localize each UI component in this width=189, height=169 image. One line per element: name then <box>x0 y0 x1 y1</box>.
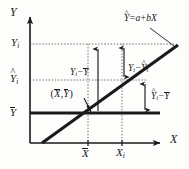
y-tick-label-Y_i: Yi <box>11 37 19 49</box>
annotation-centroid-point: (X,Y) <box>50 88 73 99</box>
y-axis-label: Y <box>10 6 17 18</box>
figure-canvas <box>0 0 189 169</box>
regression-equation-label: Y=a+bX <box>124 14 157 24</box>
x-tick-label-X_i: Xi <box>116 147 125 159</box>
annotation-unexplained-deviation: Yi−Yi <box>128 64 148 74</box>
y-tick-label-Yhat_i: Yi <box>10 73 18 85</box>
x-axis-label: X <box>170 133 177 145</box>
annotation-explained-deviation: Yi−Y <box>151 91 170 102</box>
annotation-arrows <box>98 48 145 111</box>
leader-line-regression-equation <box>150 28 174 46</box>
y-tick-label-Ybar: Y <box>10 106 16 118</box>
regression-decomposition-figure: Y X Yi Yi Y X Xi Y=a+bX Yi−Y Yi−Yi Yi−Y … <box>0 0 189 169</box>
annotation-total-deviation: Yi−Y <box>70 67 89 78</box>
x-tick-label-Xbar: X <box>82 147 89 159</box>
